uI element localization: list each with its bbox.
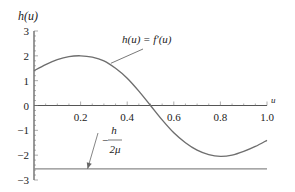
series: [34, 56, 267, 169]
annotation-denominator: 2μ: [109, 143, 121, 155]
x-tick-label: 1.0: [260, 111, 274, 123]
annotation-numerator: h: [111, 124, 117, 136]
annotation-leader-line: [111, 49, 143, 63]
series-line-hu: [34, 56, 267, 157]
annotation-hu-label: h(u) = f′(u): [122, 33, 172, 46]
x-tick-label: 0.6: [167, 111, 181, 123]
y-tick-label: −2: [17, 149, 29, 161]
x-tick-label: 0.2: [74, 111, 88, 123]
y-tick-label: −3: [17, 174, 29, 186]
arrowhead-icon: [87, 162, 92, 168]
x-tick-labels: 0.20.40.60.81.0: [74, 111, 275, 123]
y-tick-label: 0: [24, 100, 30, 112]
y-tick-labels: 3210−1−2−3: [17, 25, 29, 186]
chart: 3210−1−2−3 0.20.40.60.81.0 h(u) u h(u) =…: [0, 0, 295, 192]
y-tick-label: −1: [17, 124, 29, 136]
y-tick-label: 1: [24, 75, 30, 87]
annotation-minus-sign: −: [102, 134, 108, 146]
y-tick-label: 3: [24, 25, 30, 37]
y-tick-label: 2: [24, 50, 30, 62]
x-tick-label: 0.8: [214, 111, 228, 123]
x-axis-label: u: [271, 95, 276, 105]
x-tick-label: 0.4: [120, 111, 134, 123]
y-axis-label: h(u): [18, 9, 38, 23]
